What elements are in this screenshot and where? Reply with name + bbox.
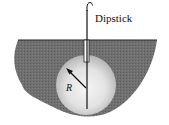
radius-label: R — [65, 82, 72, 93]
dipstick-hook-icon — [87, 3, 93, 12]
dipstick-label: Dipstick — [95, 12, 133, 24]
tank-diagram: Dipstick R — [0, 0, 169, 125]
spherical-tank — [56, 55, 116, 115]
